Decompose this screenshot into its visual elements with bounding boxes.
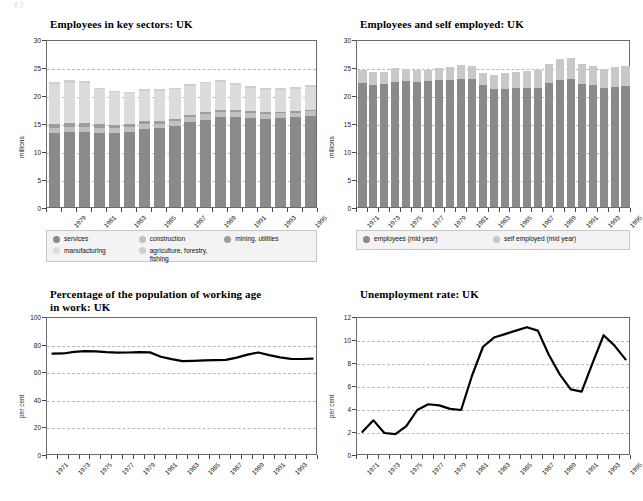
x-tick-label: 1977 (430, 214, 445, 229)
x-tick-mark (121, 208, 122, 212)
x-tick-mark (389, 208, 390, 212)
bar-segment-agriculture-forestry-fishing (94, 88, 105, 90)
x-tick-mark (520, 455, 521, 459)
bar-segment-manufacturing (49, 84, 60, 124)
bar-1994 (290, 39, 301, 207)
x-tick-mark (477, 455, 478, 459)
bar-segment-mining-utilities (94, 124, 105, 128)
x-tick-label: 1991 (271, 461, 286, 476)
bar-segment-agriculture-forestry-fishing (64, 80, 75, 82)
bar-segment-agriculture-forestry-fishing (169, 88, 180, 90)
bar-segment-construction (184, 117, 195, 122)
bar-1980 (457, 39, 465, 207)
bar-1986 (169, 39, 180, 207)
x-tick-label: 1979 (452, 214, 467, 229)
y-tick-label: 30 (19, 37, 41, 44)
y-tick-label: 80 (19, 341, 41, 348)
x-tick-mark (241, 455, 242, 459)
bar-segment-construction (305, 111, 316, 115)
legend-item-services: services (53, 235, 139, 244)
bar-segment-mining-utilities (200, 112, 211, 114)
bar-segment-mining-utilities (184, 115, 195, 117)
x-tick-label: 1989 (562, 461, 577, 476)
x-tick-mark (531, 455, 532, 459)
x-tick-mark (400, 455, 401, 459)
x-tick-mark (285, 455, 286, 459)
bar-segment-employees-(mid-year) (567, 79, 575, 207)
chart-legend: servicesconstructionmining, utilitiesman… (46, 230, 317, 262)
bar-1981 (94, 39, 105, 207)
x-tick-label: 1989 (222, 214, 237, 229)
x-tick-mark (302, 208, 303, 212)
y-tick-label: 30 (329, 37, 351, 44)
bar-1977 (424, 39, 432, 207)
bar-1991 (245, 39, 256, 207)
bar-segment-manufacturing (290, 89, 301, 111)
x-tick-label: 1985 (206, 461, 221, 476)
y-tick-label: 5 (19, 177, 41, 184)
chart-title: Percentage of the population of working … (50, 288, 265, 314)
bar-1984 (501, 39, 509, 207)
legend-label: manufacturing (64, 247, 106, 256)
legend-swatch-icon (53, 236, 60, 243)
x-tick-mark (187, 455, 188, 459)
x-tick-label: 1995 (628, 461, 643, 476)
y-tick-label: 15 (329, 121, 351, 128)
y-tick-label: 15 (19, 121, 41, 128)
bar-segment-manufacturing (94, 89, 105, 124)
bar-segment-services (169, 126, 180, 207)
bar-1973 (380, 39, 388, 207)
bar-1976 (413, 39, 421, 207)
x-tick-label: 1971 (365, 461, 380, 476)
x-tick-label: 1971 (365, 214, 380, 229)
bar-segment-self-employed-(mid-year) (479, 73, 487, 86)
bar-segment-services (245, 118, 256, 207)
x-tick-mark (106, 208, 107, 212)
bar-1990 (567, 39, 575, 207)
bar-segment-services (94, 133, 105, 207)
bar-1975 (402, 39, 410, 207)
bar-segment-mining-utilities (290, 111, 301, 113)
bar-segment-mining-utilities (109, 125, 120, 128)
bar-segment-manufacturing (305, 87, 316, 109)
bar-segment-employees-(mid-year) (621, 86, 629, 207)
x-tick-mark (76, 208, 77, 212)
y-tick-label: 8 (329, 360, 351, 367)
x-tick-mark (444, 455, 445, 459)
x-tick-mark (564, 455, 565, 459)
x-tick-label: 1985 (518, 461, 533, 476)
x-tick-mark (176, 455, 177, 459)
bar-segment-manufacturing (275, 90, 286, 112)
x-tick-mark (422, 455, 423, 459)
bar-segment-manufacturing (169, 89, 180, 118)
x-tick-label: 1983 (496, 461, 511, 476)
x-tick-mark (378, 455, 379, 459)
bar-segment-agriculture-forestry-fishing (230, 83, 241, 85)
legend-label: construction (150, 235, 186, 244)
bar-1979 (64, 39, 75, 207)
bar-segment-self-employed-(mid-year) (600, 69, 608, 87)
x-tick-mark (91, 208, 92, 212)
bar-segment-agriculture-forestry-fishing (139, 89, 150, 91)
x-tick-label: 1975 (408, 214, 423, 229)
bar-segment-mining-utilities (154, 121, 165, 124)
bar-segment-mining-utilities (169, 119, 180, 122)
x-tick-mark (619, 455, 620, 459)
x-tick-mark (444, 208, 445, 212)
bar-segment-self-employed-(mid-year) (457, 65, 465, 78)
bar-segment-construction (230, 112, 241, 118)
bar-1982 (109, 39, 120, 207)
bar-1978 (435, 39, 443, 207)
y-tick-label: 0 (329, 205, 351, 212)
bar-segment-agriculture-forestry-fishing (215, 80, 226, 82)
x-tick-mark (411, 455, 412, 459)
x-tick-label: 1981 (474, 461, 489, 476)
legend-item-mining-utilities: mining, utilities (224, 235, 310, 244)
bar-1980 (79, 39, 90, 207)
bar-segment-employees-(mid-year) (402, 81, 410, 207)
plot-area (46, 317, 317, 455)
bar-1982 (479, 39, 487, 207)
x-tick-label: 1987 (228, 461, 243, 476)
bar-segment-services (154, 128, 165, 207)
x-tick-mark (46, 455, 47, 459)
